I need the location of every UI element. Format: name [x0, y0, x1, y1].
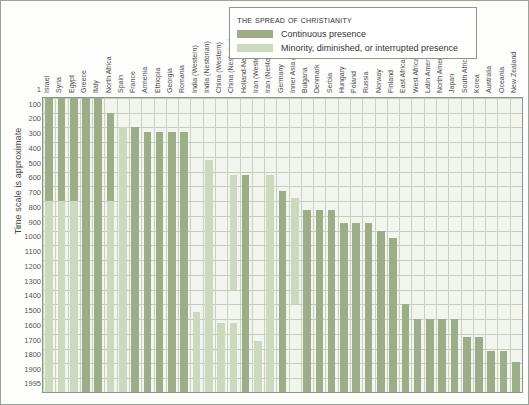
bar-segment-continuous	[438, 319, 446, 392]
y-tick-1100: 1100	[25, 248, 41, 255]
x-label-north-africa: North Africa	[105, 56, 113, 93]
bar-segment-continuous	[426, 319, 434, 392]
bar-segment-continuous	[168, 132, 176, 392]
x-label-china-western: China (Western)	[215, 42, 223, 93]
x-label-south-africa: South Africa	[461, 55, 469, 93]
x-label-italy: Italy	[92, 80, 100, 93]
bar-greece	[82, 98, 90, 392]
bar-segment-continuous	[402, 304, 410, 392]
bar-oceania	[500, 98, 508, 392]
bar-segment-minority	[266, 175, 274, 392]
bar-china-western	[217, 98, 225, 392]
x-label-australia: Australia	[485, 66, 493, 93]
y-tick-1600: 1600	[24, 321, 41, 328]
bar-segment-continuous	[328, 210, 336, 392]
y-tick-1800: 1800	[24, 351, 41, 358]
bar-segment-continuous	[451, 319, 459, 392]
x-label-france: France	[129, 71, 137, 93]
x-label-romania: Romania	[178, 65, 186, 93]
legend-label-continuous: Continuous presence	[281, 29, 366, 39]
x-label-russia: Russia	[362, 72, 370, 93]
y-tick-1300: 1300	[24, 277, 41, 284]
y-tick-1400: 1400	[24, 292, 41, 299]
y-tick-900: 900	[28, 218, 41, 225]
y-axis-tick-labels: 1100200300400500600700800900100011001200…	[15, 89, 41, 397]
x-label-hungary: Hungary	[338, 67, 346, 93]
bar-segment-minority	[70, 201, 78, 392]
bar-romania	[180, 98, 188, 392]
bar-segment-continuous	[475, 337, 483, 392]
bar-holland-netherlands	[242, 98, 250, 392]
y-tick-700: 700	[28, 189, 41, 196]
bar-korea	[475, 98, 483, 392]
legend-item-continuous: Continuous presence	[237, 29, 469, 39]
bar-armenia	[144, 98, 152, 392]
bar-serbia	[328, 98, 336, 392]
y-tick-1500: 1500	[24, 307, 41, 314]
bar-inner-asia-nestorian	[291, 98, 299, 392]
x-label-india-western: India (Western)	[191, 45, 199, 93]
bar-segment-continuous	[377, 231, 385, 392]
legend-label-minority: Minority, diminished, or interrupted pre…	[281, 43, 458, 53]
gridline-v	[522, 98, 523, 392]
bar-segment-continuous	[45, 98, 53, 201]
x-label-new-zealand: New Zealand	[510, 52, 518, 93]
x-label-israel: Israel	[43, 76, 51, 93]
bar-segment-continuous	[58, 98, 66, 201]
bar-north-america	[438, 98, 446, 392]
bar-segment-minority	[193, 312, 201, 392]
bar-iran-western	[254, 98, 262, 392]
bar-segment-continuous	[82, 98, 90, 392]
bar-segment-minority	[230, 175, 238, 290]
bar-segment-continuous	[94, 98, 102, 392]
x-label-poland: Poland	[350, 71, 358, 93]
y-tick-1000: 1000	[24, 233, 41, 240]
bar-australia	[487, 98, 495, 392]
y-tick-1900: 1900	[24, 365, 41, 372]
x-label-oceania: Oceania	[498, 67, 506, 93]
x-label-east-africa: East Africa	[399, 60, 407, 93]
bar-east-africa	[402, 98, 410, 392]
x-label-spain: Spain	[117, 75, 125, 93]
bar-iran-nestorian	[266, 98, 274, 392]
x-label-korea: Korea	[473, 74, 481, 93]
bar-segment-continuous	[279, 191, 287, 392]
bar-segment-continuous	[242, 175, 250, 392]
bar-segment-minority	[58, 201, 66, 392]
bar-bulgaria	[303, 98, 311, 392]
x-label-germany: Germany	[277, 64, 285, 93]
bar-segment-minority	[107, 201, 115, 392]
bar-segment-continuous	[487, 351, 495, 392]
x-label-armenia: Armenia	[141, 67, 149, 93]
bar-segment-continuous	[303, 210, 311, 392]
bar-georgia	[168, 98, 176, 392]
bar-segment-continuous	[107, 113, 115, 201]
x-label-greece: Greece	[80, 70, 88, 93]
x-label-japan: Japan	[448, 74, 456, 93]
bar-india-western	[193, 98, 201, 392]
bar-segment-minority	[291, 198, 299, 304]
bar-segment-continuous	[512, 362, 520, 392]
bar-china-nestorian	[230, 98, 238, 392]
bar-segment-minority	[230, 323, 238, 392]
bar-segment-continuous	[340, 223, 348, 392]
y-tick-800: 800	[28, 203, 41, 210]
bar-segment-minority	[254, 341, 262, 392]
bar-hungary	[340, 98, 348, 392]
x-label-ethiopia: Ethiopia	[154, 68, 162, 93]
bar-series-group	[43, 98, 522, 392]
x-label-west-africa: West Africa	[412, 58, 420, 93]
bar-denmark	[316, 98, 324, 392]
x-label-india-nestorian: India (Nestorian)	[203, 41, 211, 93]
bar-segment-continuous	[70, 98, 78, 201]
chart-page: Time scale is approximate 11002003004005…	[0, 0, 529, 405]
y-tick-1995: 1995	[24, 380, 41, 387]
bar-segment-minority	[205, 160, 213, 392]
y-tick-300: 300	[28, 130, 41, 137]
gridline-h	[43, 392, 522, 393]
bar-syria	[58, 98, 66, 392]
bar-segment-continuous	[389, 238, 397, 392]
bar-france	[131, 98, 139, 392]
x-label-denmark: Denmark	[313, 65, 321, 93]
y-tick-100: 100	[28, 100, 41, 107]
